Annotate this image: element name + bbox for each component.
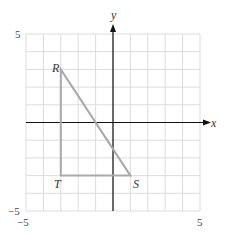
x-axis-label: x bbox=[210, 116, 217, 130]
y-axis-arrow-icon bbox=[110, 24, 116, 32]
y-axis-label: y bbox=[110, 8, 117, 22]
x-tick-left-label: −5 bbox=[17, 216, 29, 228]
x-tick-right-label: 5 bbox=[197, 216, 203, 228]
coordinate-plane: 5 −5 −5 5 x y R S T bbox=[0, 0, 227, 236]
point-label-r: R bbox=[51, 61, 60, 75]
y-tick-top-label: 5 bbox=[15, 28, 21, 40]
point-label-s: S bbox=[133, 177, 139, 191]
x-axis-arrow-icon bbox=[203, 120, 211, 126]
